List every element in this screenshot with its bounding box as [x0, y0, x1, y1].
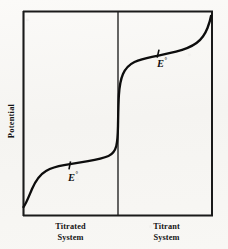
eo-upper-degree: °: [165, 56, 168, 63]
titration-curve-figure: Potential E° E° Titrated System Titrant …: [0, 0, 228, 249]
region-titrated-line1: Titrated: [28, 222, 113, 233]
eo-lower-symbol: E: [68, 172, 75, 183]
eo-upper-symbol: E: [157, 58, 164, 69]
eo-upper-label: E°: [157, 56, 167, 69]
titration-curve: [24, 16, 212, 207]
region-titrant-line2: System: [125, 233, 208, 244]
region-titrant-line1: Titrant: [125, 222, 208, 233]
plot-canvas: [0, 0, 228, 249]
eo-lower-label: E°: [68, 170, 78, 183]
region-label-titrant: Titrant System: [125, 222, 208, 243]
eo-lower-degree: °: [76, 170, 79, 177]
region-titrated-line2: System: [28, 233, 113, 244]
eo-lower-tick: [69, 161, 71, 169]
region-label-titrated: Titrated System: [28, 222, 113, 243]
y-axis-title: Potential: [6, 93, 16, 149]
